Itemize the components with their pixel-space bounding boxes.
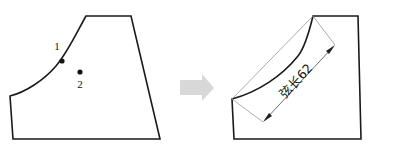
diagram-svg: 1 2 弦长62 [0, 0, 394, 150]
point-1-dot [59, 58, 64, 63]
point-1-label: 1 [54, 40, 60, 52]
transform-arrow-group [180, 74, 214, 101]
right-shape-group: 弦长62 [232, 16, 361, 139]
point-2-dot [77, 69, 82, 74]
point-2-label: 2 [77, 78, 83, 90]
left-shape-group: 1 2 [10, 16, 160, 139]
transform-arrow-icon [180, 74, 214, 101]
diagram-canvas: 1 2 弦长62 [0, 0, 394, 150]
left-shape-outline [10, 16, 160, 139]
